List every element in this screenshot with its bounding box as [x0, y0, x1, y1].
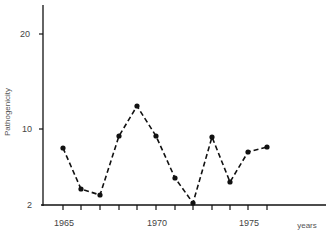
data-point-1965 — [60, 145, 65, 150]
y-tick-label-2: 2 — [27, 200, 32, 210]
chart: 20 10 2 Pathogenicity 1965 1970 1975 yea… — [0, 0, 328, 236]
data-point-1970 — [153, 133, 158, 138]
data-point-1972 — [190, 200, 195, 205]
x-tick-label-1975: 1975 — [239, 218, 259, 228]
data-point-1966 — [78, 186, 83, 191]
y-tick-label-10: 10 — [22, 124, 32, 134]
data-point-1971 — [172, 175, 177, 180]
series-line — [63, 106, 267, 203]
x-axis-title: years — [297, 221, 317, 230]
data-point-1969 — [134, 103, 139, 108]
y-tick-label-20: 20 — [20, 29, 30, 39]
x-tick-label-1970: 1970 — [147, 218, 167, 228]
data-point-1974 — [227, 179, 232, 184]
x-tick-label-1965: 1965 — [54, 218, 74, 228]
data-point-1973 — [209, 134, 214, 139]
y-axis-title: Pathogenicity — [3, 88, 12, 136]
data-point-1968 — [116, 133, 121, 138]
data-point-1976 — [264, 144, 269, 149]
data-point-1967 — [97, 192, 102, 197]
x-ticks — [63, 205, 267, 210]
data-point-1975 — [245, 149, 250, 154]
